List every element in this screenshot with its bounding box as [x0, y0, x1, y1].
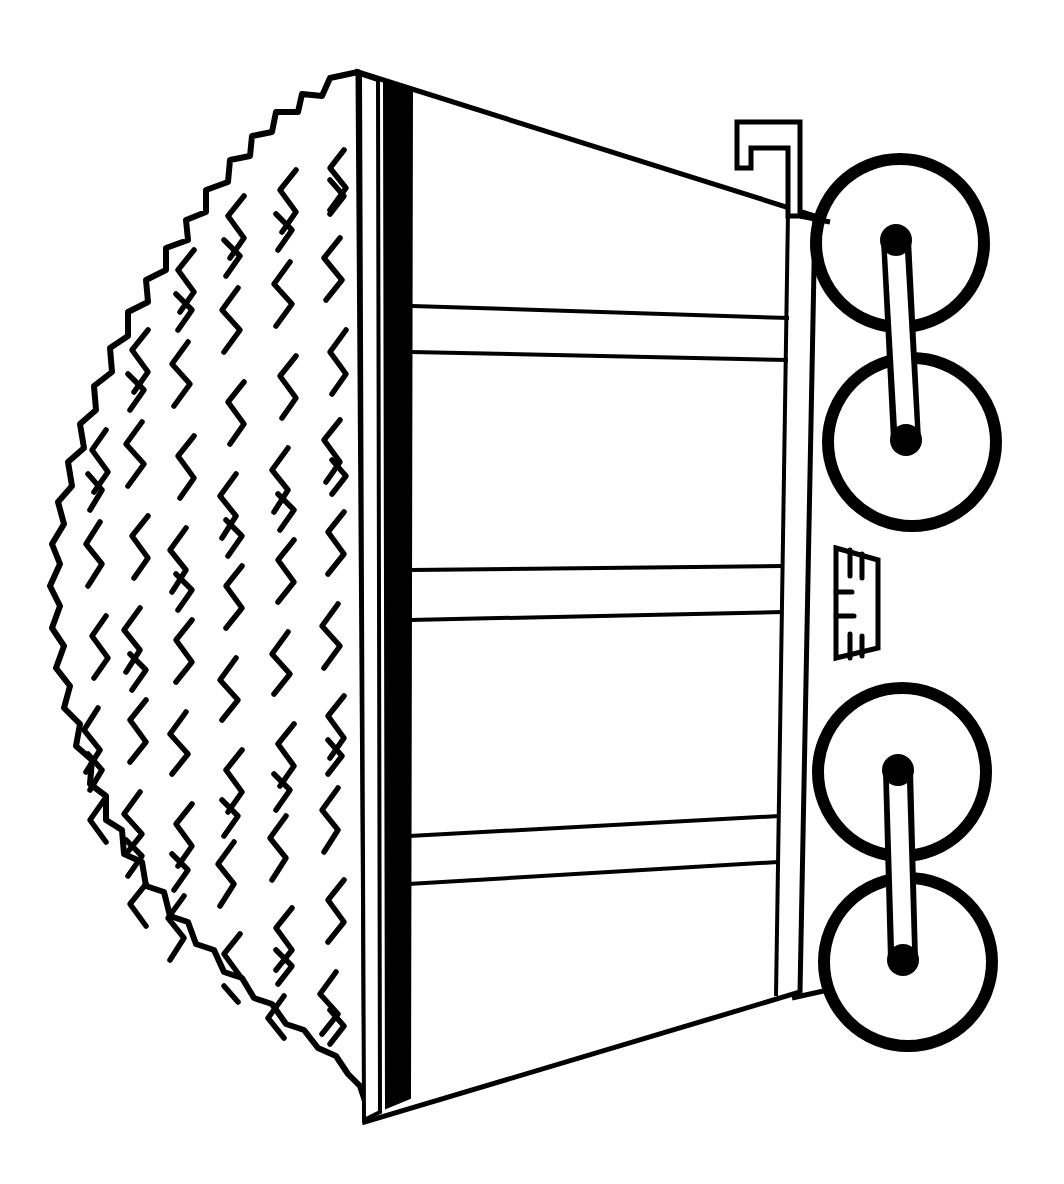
wheel-hub-upper-rear — [890, 424, 922, 456]
axle-bar-upper-inner — [896, 252, 906, 428]
black-edge-bar — [384, 82, 412, 1108]
axle-bar-lower-inner — [898, 782, 903, 948]
illustration-canvas: Hay wagon line drawing Black-and-white l… — [0, 0, 1064, 1184]
spring-bracket-body — [836, 548, 878, 658]
leaf-spring-bracket — [836, 548, 878, 658]
wheel-hub-lower-rear — [887, 944, 919, 976]
wheel-hub-lower-front — [882, 754, 914, 786]
end-panel — [358, 72, 815, 1122]
hay-wagon-line-drawing: Hay wagon line drawing Black-and-white l… — [0, 0, 1064, 1184]
wheel-hub-upper-front — [880, 224, 912, 256]
white-rail — [360, 74, 380, 1120]
panel-body — [358, 72, 815, 1122]
